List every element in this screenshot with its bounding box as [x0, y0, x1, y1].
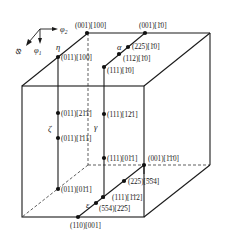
- label-110-001: (110)[001]: [70, 222, 101, 230]
- axes-indicator: φ2 φ1 Φ: [13, 24, 68, 57]
- label-554-2b2b5: (554)[2̄2̄5]: [99, 205, 130, 213]
- label-001-1b1b0: (001)[1̄1̄0]: [148, 155, 179, 163]
- arrow-phi1-icon: [38, 38, 42, 44]
- label-225-5b5b4: (225)[5̄5̄4]: [128, 178, 159, 186]
- gamma-symbol: γ: [94, 122, 98, 132]
- label-001-100: (001)[100]: [75, 22, 106, 30]
- axis-phi1-label: φ1: [34, 45, 42, 56]
- euler-space-diagram: φ2 φ1 Φ η α ζ γ ε (001)[100] (001)[1̄0] …: [0, 0, 226, 245]
- axis-Phi-label: Φ: [13, 45, 25, 57]
- arrow-phi2-icon: [52, 27, 58, 31]
- label-111-1b10: (111)[1̄0]: [107, 67, 134, 75]
- label-111-12b1: (111)[12̄1]: [107, 111, 138, 119]
- label-112-1b10: (112)[1̄0]: [123, 55, 150, 63]
- label-011-100: (011)[100]: [61, 54, 92, 62]
- label-225-1b10: (225)[1̄0]: [132, 43, 160, 51]
- label-011-01b1: (011)[01̄1]: [61, 186, 92, 194]
- label-001-1b10: (001)[1̄0]: [139, 22, 167, 30]
- label-011-21b1b: (011)[21̄1̄]: [61, 110, 92, 118]
- alpha-symbol: α: [117, 42, 122, 52]
- zeta-symbol: ζ: [48, 124, 52, 134]
- label-111-01b1: (111)[01̄1]: [107, 155, 137, 163]
- axis-phi2-label: φ2: [60, 24, 68, 35]
- label-111-1b1b2: (111)[1̄1̄2]: [112, 194, 142, 202]
- eta-symbol: η: [56, 42, 60, 52]
- label-011-1b11: (011)[1̄11]: [61, 135, 91, 143]
